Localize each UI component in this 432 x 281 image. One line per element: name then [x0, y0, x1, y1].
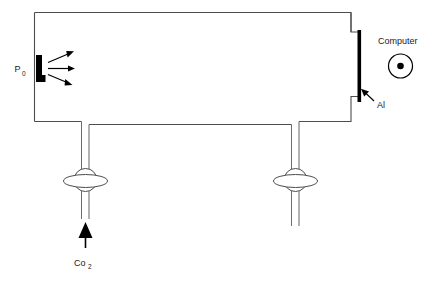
- gas-inlet-arrowhead: [79, 222, 93, 238]
- left-valve: [64, 169, 108, 192]
- chamber-vessel: [35, 13, 359, 125]
- left-valve-disc: [64, 175, 108, 188]
- apparatus-svg: P 0 Al Computer: [0, 0, 432, 281]
- source-emitter: [36, 55, 46, 82]
- apparatus-diagram: P 0 Al Computer: [0, 0, 432, 281]
- emission-ray-lower-arrowhead: [65, 79, 73, 85]
- electrode-label: Al: [377, 100, 385, 110]
- source-label-subscript: 0: [22, 70, 26, 77]
- electrode-pointer: [361, 89, 374, 101]
- gas-inlet-arrow: [79, 222, 93, 248]
- emission-ray-upper: [48, 54, 68, 63]
- computer-label: Computer: [378, 36, 418, 46]
- source-emitter-foot: [36, 75, 46, 82]
- aluminium-electrode-bar: [358, 30, 362, 102]
- source-label-text: P: [15, 64, 21, 74]
- source-label: P 0: [15, 64, 27, 77]
- emission-ray-middle-arrowhead: [68, 65, 75, 71]
- emission-ray-lower: [48, 75, 67, 83]
- right-valve-disc: [274, 175, 318, 188]
- emission-ray-upper-arrowhead: [66, 51, 74, 57]
- right-valve: [274, 169, 318, 192]
- chamber-bottom-right-wall: [299, 97, 359, 122]
- gas-label-text: Co: [74, 258, 86, 268]
- computer-terminal-dot: [397, 63, 404, 70]
- computer-terminal-symbol: [389, 54, 413, 78]
- gas-label-subscript: 2: [88, 263, 92, 270]
- emission-rays: [48, 51, 75, 85]
- gas-label: Co 2: [74, 258, 92, 270]
- chamber-top-wall: [35, 13, 359, 33]
